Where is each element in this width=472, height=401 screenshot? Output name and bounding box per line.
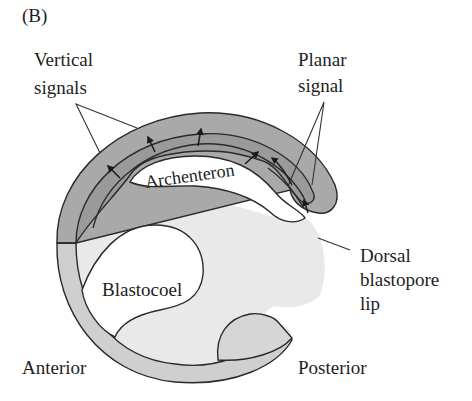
label-signals: signals [34, 77, 87, 98]
label-posterior: Posterior [298, 357, 367, 378]
label-lip: lip [360, 293, 380, 314]
label-anterior: Anterior [22, 357, 87, 378]
label-blastocoel: Blastocoel [102, 279, 182, 300]
label-planar: Planar [298, 49, 347, 70]
label-vertical: Vertical [34, 49, 93, 70]
panel-label: (B) [22, 5, 47, 27]
label-blastopore: blastopore [360, 269, 439, 290]
label-signal: signal [298, 75, 343, 96]
label-dorsal: Dorsal [360, 245, 411, 266]
embryo-diagram: (B) [0, 0, 472, 401]
